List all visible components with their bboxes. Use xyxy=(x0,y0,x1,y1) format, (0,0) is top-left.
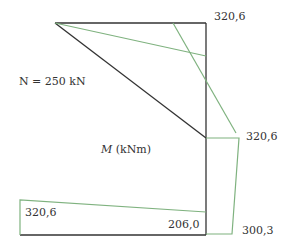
label-moment-unit: M (kNm) xyxy=(101,143,151,156)
label-mid-right: 320,6 xyxy=(246,130,278,143)
moment-line-column-bottom xyxy=(206,138,239,234)
label-top-right: 320,6 xyxy=(214,10,246,23)
moment-symbol: M xyxy=(101,143,112,156)
label-bottom-left: 320,6 xyxy=(25,206,57,219)
label-bottom-inner: 206,0 xyxy=(168,218,200,231)
label-axial-force: N = 250 kN xyxy=(19,75,86,88)
moment-line-column-top xyxy=(173,23,236,133)
moment-unit: (kNm) xyxy=(112,143,151,156)
label-bottom-right: 300,3 xyxy=(242,224,274,237)
